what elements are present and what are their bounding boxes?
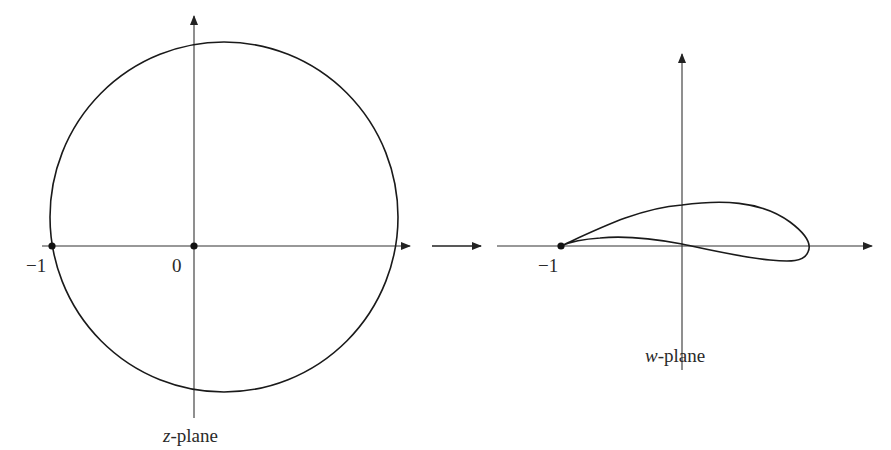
mapping-diagram: −1 0 z-plane −1 w-plane <box>0 0 891 450</box>
w-plane-label-rest: -plane <box>658 345 705 366</box>
z-point-minus-one <box>48 242 55 249</box>
z-point-origin <box>190 242 197 249</box>
z-plane: −1 0 z-plane <box>26 16 410 446</box>
w-label-minus-one: −1 <box>538 255 558 276</box>
z-label-minus-one: −1 <box>26 255 46 276</box>
w-plane: −1 w-plane <box>497 54 872 370</box>
z-plane-label: z-plane <box>162 425 218 446</box>
w-plane-label: w-plane <box>645 345 705 366</box>
w-airfoil-curve <box>561 202 809 261</box>
z-circle <box>50 42 398 392</box>
z-label-origin: 0 <box>172 255 182 276</box>
w-point-minus-one <box>557 242 564 249</box>
z-plane-label-rest: -plane <box>170 425 217 446</box>
w-plane-label-var: w <box>645 345 658 366</box>
